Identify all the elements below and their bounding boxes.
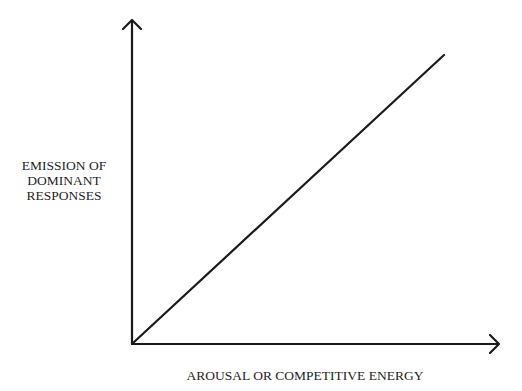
x-axis (132, 335, 499, 353)
linear-relationship-line (133, 55, 444, 343)
y-axis-label: EMISSION OF DOMINANT RESPONSES (8, 158, 120, 203)
x-axis-label: AROUSAL OR COMPETITIVE ENERGY (150, 368, 460, 384)
y-axis-label-line-3: RESPONSES (8, 188, 120, 203)
y-axis-label-line-2: DOMINANT (8, 173, 120, 188)
y-axis-label-line-1: EMISSION OF (8, 158, 120, 173)
y-axis (123, 20, 141, 344)
